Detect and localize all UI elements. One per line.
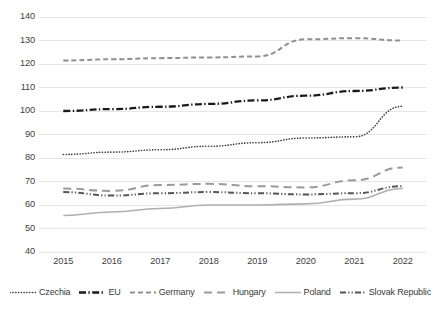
series-line-eu [63,88,403,112]
series-line-czechia [63,106,403,154]
legend-swatch-icon [79,288,105,297]
line-chart: 140130120110100908070605040 201520162017… [0,0,441,310]
legend-item-czechia[interactable]: Czechia [10,287,70,297]
legend-label: EU [108,287,120,297]
series-line-slovak-republic [63,186,403,195]
series-lines [63,38,403,215]
legend-swatch-icon [275,288,301,297]
legend-label: Poland [304,287,331,297]
x-axis-tick-label: 2015 [41,256,85,267]
legend-item-hungary[interactable]: Hungary [204,287,266,297]
legend-item-germany[interactable]: Germany [130,287,195,297]
legend-label: Hungary [233,287,266,297]
x-axis-tick-label: 2020 [284,256,328,267]
chart-legend: CzechiaEUGermanyHungaryPolandSlovak Repu… [0,283,441,301]
legend-item-poland[interactable]: Poland [275,287,331,297]
x-axis: 20152016201720182019202020212022 [39,256,427,272]
legend-label: Czechia [39,287,70,297]
legend-swatch-icon [340,288,366,297]
legend-label: Slovak Republic [369,287,431,297]
legend-label: Germany [159,287,195,297]
x-axis-tick-label: 2017 [138,256,182,267]
x-axis-tick-label: 2022 [381,256,425,267]
series-line-germany [63,38,403,60]
x-axis-tick-label: 2016 [90,256,134,267]
legend-swatch-icon [10,288,36,297]
x-axis-tick-label: 2018 [187,256,231,267]
legend-item-slovak-republic[interactable]: Slovak Republic [340,287,431,297]
legend-swatch-icon [204,288,230,297]
series-line-hungary [63,167,403,191]
x-axis-tick-label: 2021 [332,256,376,267]
legend-swatch-icon [130,288,156,297]
x-axis-tick-label: 2019 [235,256,279,267]
gridlines [39,17,427,252]
legend-item-eu[interactable]: EU [79,287,120,297]
